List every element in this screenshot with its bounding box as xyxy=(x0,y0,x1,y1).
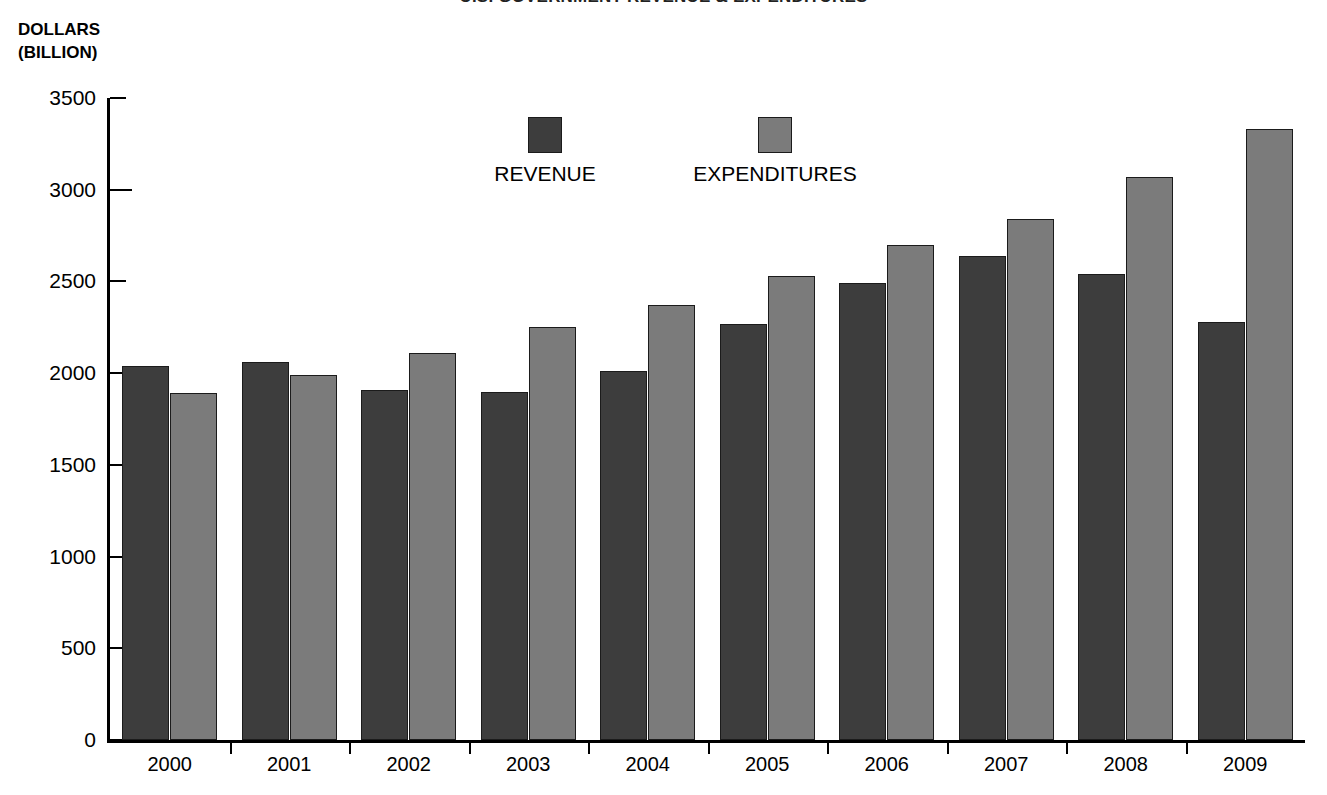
x-axis-label-2000: 2000 xyxy=(110,753,230,776)
bar-expenditures-2008[interactable] xyxy=(1126,177,1173,740)
x-axis-label-2006: 2006 xyxy=(827,753,947,776)
y-axis-caption-line-1: DOLLARS xyxy=(18,18,100,41)
x-tick-2001 xyxy=(230,740,232,754)
bar-revenue-2004[interactable] xyxy=(600,371,647,740)
y-axis-caption-line-2: (BILLION) xyxy=(18,41,100,64)
y-tick-label-3500: 3500 xyxy=(49,86,96,110)
bar-expenditures-2005[interactable] xyxy=(768,276,815,740)
bar-revenue-2003[interactable] xyxy=(481,392,528,741)
bar-expenditures-2000[interactable] xyxy=(170,393,217,740)
x-tick-2008 xyxy=(1066,740,1068,754)
x-axis-label-2002: 2002 xyxy=(349,753,469,776)
y-tick-label-1000: 1000 xyxy=(49,545,96,569)
legend-item-expenditures[interactable]: EXPENDITURES xyxy=(655,117,895,186)
x-axis-label-2008: 2008 xyxy=(1066,753,1186,776)
x-axis-label-2004: 2004 xyxy=(588,753,708,776)
bar-expenditures-2009[interactable] xyxy=(1246,129,1293,740)
x-tick-2003 xyxy=(469,740,471,754)
bar-expenditures-2007[interactable] xyxy=(1007,219,1054,740)
x-tick-2006 xyxy=(827,740,829,754)
bar-revenue-2001[interactable] xyxy=(242,362,289,740)
bar-revenue-2008[interactable] xyxy=(1078,274,1125,740)
x-axis-label-2005: 2005 xyxy=(708,753,828,776)
y-tick-label-1500: 1500 xyxy=(49,453,96,477)
chart-title: U.S. GOVERNMENT REVENUE & EXPENDITURES xyxy=(0,0,1327,7)
x-axis-label-2007: 2007 xyxy=(947,753,1067,776)
y-tick-2500: 2500 xyxy=(110,280,126,282)
y-tick-label-3000: 3000 xyxy=(49,178,96,202)
bar-revenue-2000[interactable] xyxy=(122,366,169,740)
bar-expenditures-2001[interactable] xyxy=(290,375,337,740)
x-axis-line xyxy=(107,740,1305,743)
y-axis-caption: DOLLARS (BILLION) xyxy=(18,18,100,64)
legend-item-revenue[interactable]: REVENUE xyxy=(470,117,620,186)
y-tick-label-2000: 2000 xyxy=(49,361,96,385)
y-tick-3500: 3500 xyxy=(110,97,126,99)
y-tick-3000: 3000 xyxy=(110,189,132,191)
y-tick-label-0: 0 xyxy=(84,728,96,752)
x-axis-label-2009: 2009 xyxy=(1186,753,1306,776)
bar-expenditures-2003[interactable] xyxy=(529,327,576,740)
x-tick-2002 xyxy=(349,740,351,754)
y-tick-label-500: 500 xyxy=(61,636,96,660)
bar-revenue-2005[interactable] xyxy=(720,324,767,740)
legend-label-expenditures: EXPENDITURES xyxy=(655,162,895,186)
bar-expenditures-2004[interactable] xyxy=(648,305,695,740)
x-tick-2005 xyxy=(708,740,710,754)
bar-expenditures-2002[interactable] xyxy=(409,353,456,740)
bar-revenue-2006[interactable] xyxy=(839,283,886,740)
bar-revenue-2007[interactable] xyxy=(959,256,1006,740)
x-axis-label-2001: 2001 xyxy=(230,753,350,776)
plot-area: 0500100015002000250030003500 20002001200… xyxy=(110,98,1305,740)
x-tick-2007 xyxy=(947,740,949,754)
legend-swatch-revenue-icon xyxy=(528,117,562,153)
y-axis-line xyxy=(107,98,110,741)
x-tick-2009 xyxy=(1186,740,1188,754)
legend-swatch-expenditures-icon xyxy=(758,117,792,153)
bar-expenditures-2006[interactable] xyxy=(887,245,934,740)
x-axis-label-2003: 2003 xyxy=(469,753,589,776)
x-tick-2004 xyxy=(588,740,590,754)
y-tick-label-2500: 2500 xyxy=(49,269,96,293)
legend-label-revenue: REVENUE xyxy=(470,162,620,186)
bar-revenue-2002[interactable] xyxy=(361,390,408,740)
bar-revenue-2009[interactable] xyxy=(1198,322,1245,740)
chart-page: U.S. GOVERNMENT REVENUE & EXPENDITURES D… xyxy=(0,0,1327,795)
